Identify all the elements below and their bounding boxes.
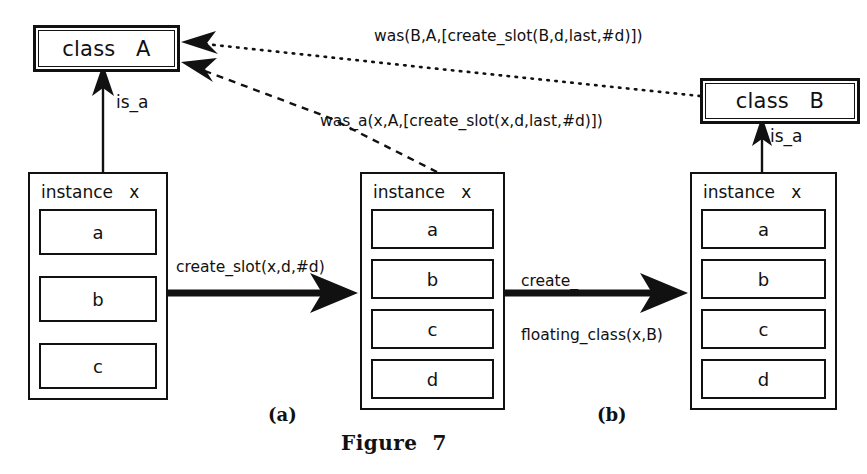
slot-item[interactable]: c — [39, 343, 157, 389]
slot-item[interactable]: c — [701, 309, 826, 349]
transition-1-label: create_slot(x,d,#d) — [176, 258, 325, 276]
was-b-a-label: was(B,A,[create_slot(B,d,last,#d)]) — [374, 27, 643, 45]
slot-item[interactable]: d — [371, 359, 494, 399]
transition-2-label-line1: create_ — [521, 272, 663, 290]
was-a-x-a-label: was_a(x,A,[create_slot(x,d,last,#d)]) — [320, 112, 603, 130]
instance-box-middle[interactable]: instance x a b c d — [360, 172, 505, 410]
isa-arrow-left — [92, 64, 114, 172]
class-box-b[interactable]: class B — [700, 78, 860, 124]
slot-item[interactable]: c — [371, 309, 494, 349]
slot-item[interactable]: b — [371, 259, 494, 299]
slot-item[interactable]: b — [39, 276, 157, 322]
slot-item[interactable]: b — [701, 259, 826, 299]
instance-right-title: instance x — [703, 182, 826, 202]
transition-arrow-1 — [168, 273, 358, 313]
slot-item[interactable]: d — [701, 359, 826, 399]
isa-arrow-right — [752, 116, 772, 172]
instance-box-left[interactable]: instance x a b c — [28, 172, 168, 400]
isa-label-left: is_a — [116, 92, 149, 112]
instance-middle-slot-list: a b c d — [371, 209, 494, 399]
isa-label-right: is_a — [770, 126, 803, 146]
instance-right-slot-list: a b c d — [701, 209, 826, 399]
instance-middle-title: instance x — [373, 182, 494, 202]
figure-7-diagram: class A class B instance x a b c instanc… — [0, 0, 867, 474]
figure-caption: Figure 7 — [341, 431, 447, 455]
transition-2-label-line2: floating_class(x,B) — [521, 326, 663, 344]
instance-left-title: instance x — [41, 182, 157, 202]
slot-item[interactable]: a — [39, 209, 157, 255]
class-b-label: class B — [736, 89, 824, 113]
transition-2-label: create_ floating_class(x,B) — [521, 235, 663, 381]
panel-caption-a: (a) — [268, 404, 297, 425]
slot-item[interactable]: a — [371, 209, 494, 249]
slot-item[interactable]: a — [701, 209, 826, 249]
panel-caption-b: (b) — [597, 404, 627, 425]
instance-left-slot-list: a b c — [39, 209, 157, 389]
class-a-label: class A — [62, 37, 150, 61]
class-box-a-inner: class A — [38, 30, 175, 67]
class-box-b-inner: class B — [705, 83, 855, 119]
class-box-a[interactable]: class A — [33, 25, 180, 72]
instance-box-right[interactable]: instance x a b c d — [690, 172, 837, 410]
